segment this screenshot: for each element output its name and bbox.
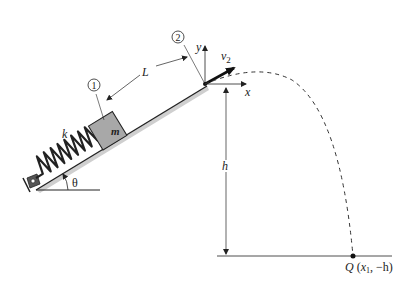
landing-point-q bbox=[351, 254, 356, 259]
position-2-extension bbox=[184, 45, 205, 84]
svg-text:1: 1 bbox=[92, 80, 97, 91]
position-2-marker: 2 bbox=[172, 31, 184, 43]
distance-label: L bbox=[141, 65, 149, 79]
mass-block bbox=[88, 112, 126, 150]
angle-label: θ bbox=[72, 176, 78, 190]
y-axis-label: y bbox=[195, 40, 202, 54]
landing-point-label: Q(x1, −h) bbox=[345, 260, 393, 275]
position-1-marker: 1 bbox=[88, 79, 100, 91]
spring-constant-label: k bbox=[62, 127, 68, 141]
x-axis-label: x bbox=[244, 85, 251, 99]
height-label: h bbox=[222, 159, 228, 173]
mass-label: m bbox=[111, 125, 120, 137]
position-1-extension bbox=[96, 94, 104, 120]
svg-text:2: 2 bbox=[176, 32, 181, 43]
velocity-label: v2 bbox=[221, 49, 231, 65]
diagram-canvas: θ k m L 1 2 y x v2 bbox=[0, 0, 410, 285]
